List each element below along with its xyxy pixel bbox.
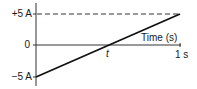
x-label-end: 1 s [175,50,188,60]
y-label-minus5: −5 A [2,72,32,82]
x-axis-title: Time (s) [141,33,177,43]
y-label-zero: 0 [0,40,30,50]
x-label-t: t [106,49,109,59]
y-label-plus5: +5 A [2,9,32,19]
